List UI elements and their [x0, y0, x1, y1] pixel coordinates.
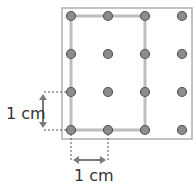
dot-grid — [67, 12, 187, 135]
peg-dot — [67, 12, 76, 21]
peg-dot — [178, 126, 187, 135]
arrow-right-icon — [100, 156, 106, 164]
peg-dot — [104, 12, 113, 21]
peg-dot — [141, 50, 150, 59]
vertical-label: 1 cm — [6, 104, 46, 123]
peg-dot — [141, 126, 150, 135]
peg-dot — [67, 50, 76, 59]
arrow-up-icon — [39, 94, 47, 100]
rectangle-shape — [71, 16, 145, 130]
board-frame — [62, 8, 192, 139]
peg-dot — [141, 88, 150, 97]
peg-dot — [178, 88, 187, 97]
peg-dot — [178, 12, 187, 21]
peg-dot — [104, 50, 113, 59]
arrow-left-icon — [73, 156, 79, 164]
peg-dot — [67, 126, 76, 135]
peg-dot — [67, 88, 76, 97]
peg-dot — [141, 12, 150, 21]
horizontal-label: 1 cm — [74, 166, 114, 185]
peg-dot — [104, 126, 113, 135]
peg-dot — [104, 88, 113, 97]
geoboard-diagram — [0, 0, 194, 187]
peg-dot — [178, 50, 187, 59]
